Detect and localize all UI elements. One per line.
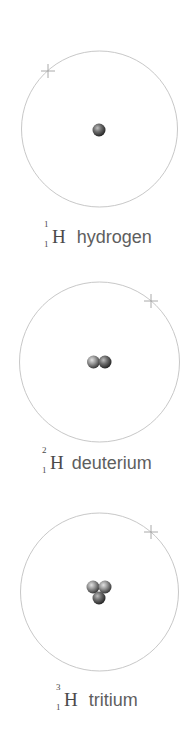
atomic-number: 1: [56, 703, 61, 712]
element-symbol: H: [64, 690, 78, 709]
label-hydrogen: 1 H 1 hydrogen: [44, 227, 152, 246]
atom-hydrogen: [22, 51, 178, 207]
label-tritium: 3 H 1 tritium: [56, 690, 138, 709]
isotope-diagram: [0, 0, 195, 729]
isotope-name: hydrogen: [77, 228, 152, 246]
neutron-sphere-icon: [87, 581, 100, 594]
element-symbol: H: [50, 453, 64, 472]
nuclide-notation: 2 H 1: [42, 453, 64, 472]
mass-number: 3: [56, 683, 61, 692]
isotope-name: deuterium: [72, 454, 152, 472]
element-symbol: H: [52, 227, 66, 246]
nuclide-notation: 3 H 1: [56, 690, 78, 709]
atom-deuterium: [20, 282, 180, 442]
nucleus: [93, 124, 106, 137]
nucleus: [87, 581, 112, 605]
isotope-name: tritium: [89, 691, 138, 709]
mass-number: 1: [44, 220, 49, 229]
mass-number: 2: [42, 446, 47, 455]
atomic-number: 1: [44, 240, 49, 249]
nuclide-notation: 1 H 1: [44, 227, 66, 246]
neutron-sphere-icon: [87, 356, 100, 369]
atom-tritium: [21, 513, 179, 671]
atomic-number: 1: [42, 466, 47, 475]
proton-sphere-icon: [93, 592, 106, 605]
proton-sphere-icon: [99, 356, 112, 369]
label-deuterium: 2 H 1 deuterium: [42, 453, 152, 472]
nucleus: [87, 356, 112, 369]
neutron-sphere-icon: [99, 581, 112, 594]
proton-sphere-icon: [93, 124, 106, 137]
